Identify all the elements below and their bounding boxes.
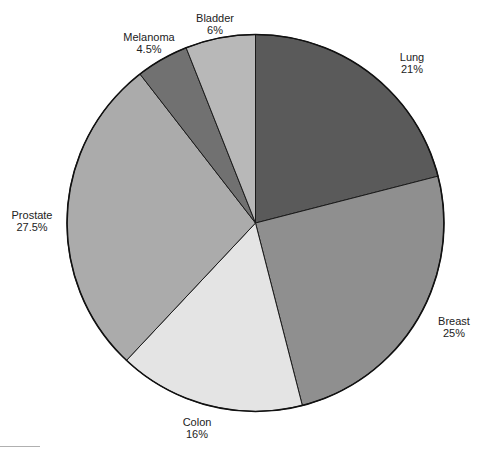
label-melanoma-name: Melanoma — [123, 31, 174, 43]
footer-rule — [0, 446, 40, 447]
label-colon: Colon 16% — [183, 416, 212, 440]
label-melanoma: Melanoma 4.5% — [123, 31, 174, 55]
label-lung: Lung 21% — [400, 51, 424, 75]
label-lung-name: Lung — [400, 51, 424, 63]
label-prostate-pct: 27.5% — [12, 221, 53, 233]
label-breast-pct: 25% — [438, 327, 470, 339]
label-lung-pct: 21% — [400, 63, 424, 75]
label-colon-name: Colon — [183, 416, 212, 428]
label-breast-name: Breast — [438, 315, 470, 327]
label-bladder: Bladder 6% — [196, 12, 234, 36]
label-prostate-name: Prostate — [12, 209, 53, 221]
pie-chart: Lung 21% Breast 25% Colon 16% Prostate 2… — [0, 0, 484, 449]
pie-slices — [67, 35, 444, 412]
label-prostate: Prostate 27.5% — [12, 209, 53, 233]
label-melanoma-pct: 4.5% — [123, 43, 174, 55]
label-breast: Breast 25% — [438, 315, 470, 339]
label-bladder-name: Bladder — [196, 12, 234, 24]
label-bladder-pct: 6% — [196, 24, 234, 36]
label-colon-pct: 16% — [183, 428, 212, 440]
